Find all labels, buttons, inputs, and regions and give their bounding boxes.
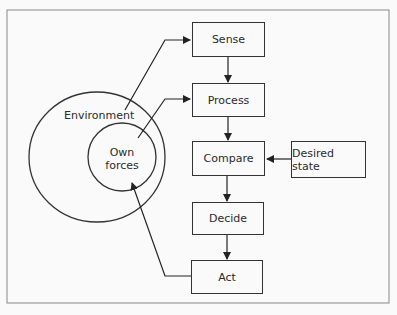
own-forces-line2: forces xyxy=(102,159,142,172)
node-desired-state: Desired state xyxy=(291,141,366,178)
own-forces-label: Own forces xyxy=(102,146,142,172)
environment-label: Environment xyxy=(64,109,128,122)
node-act: Act xyxy=(191,260,263,294)
own-forces-line1: Own xyxy=(102,146,142,159)
node-compare: Compare xyxy=(192,141,265,176)
node-sense: Sense xyxy=(192,22,265,57)
node-decide: Decide xyxy=(192,202,264,235)
node-process: Process xyxy=(192,83,265,117)
arrow-act-to-own-forces xyxy=(132,183,191,276)
